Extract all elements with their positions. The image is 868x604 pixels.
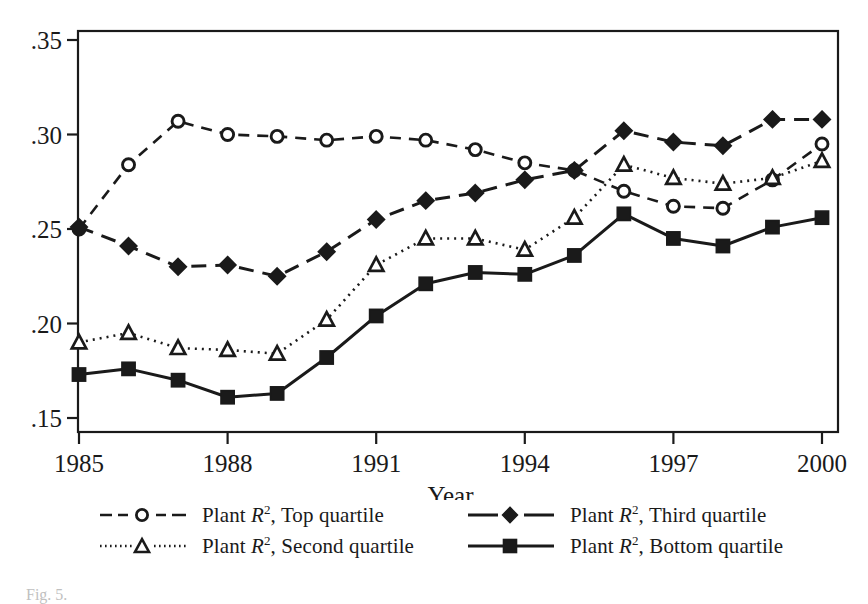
data-point-marker [764, 111, 780, 127]
figure-caption-fragment: Fig. 5. [26, 586, 67, 604]
data-point-marker [271, 130, 283, 142]
x-tick-label: 2000 [797, 450, 847, 477]
data-point-marker [617, 157, 631, 171]
data-series-layer [71, 111, 830, 404]
data-point-marker [219, 257, 235, 273]
data-point-marker [814, 111, 830, 127]
data-point-marker [518, 268, 531, 281]
data-point-marker [220, 342, 234, 356]
x-tick-label: 1994 [500, 450, 551, 477]
data-point-marker [665, 134, 681, 150]
data-point-marker [667, 232, 680, 245]
x-tick-label: 1997 [648, 450, 698, 477]
legend-item-bottom-quartile[interactable]: Plant R2, Bottom quartile [464, 531, 794, 561]
y-tick-label: .15 [31, 405, 62, 432]
data-point-marker [716, 239, 729, 252]
data-point-marker [815, 153, 829, 167]
legend-label-bottom-quartile: Plant R2, Bottom quartile [570, 534, 783, 559]
data-point-marker [271, 387, 284, 400]
data-point-marker [170, 259, 186, 275]
legend-label-third-quartile: Plant R2, Third quartile [570, 503, 766, 528]
data-point-marker [567, 210, 581, 224]
x-tick-label: 1988 [203, 450, 253, 477]
legend-swatch-open-circle-dashed [96, 502, 192, 528]
data-point-marker [368, 211, 384, 227]
data-point-marker [318, 243, 334, 259]
data-point-marker [420, 134, 432, 146]
legend-item-second-quartile[interactable]: Plant R2, Second quartile [96, 531, 426, 561]
data-point-marker [321, 134, 333, 146]
data-point-marker [123, 159, 135, 171]
legend-item-third-quartile[interactable]: Plant R2, Third quartile [464, 500, 794, 530]
data-point-marker [766, 221, 779, 234]
x-axis-title: Year [427, 482, 474, 500]
data-point-marker [617, 207, 630, 220]
data-point-marker [171, 340, 185, 354]
data-point-marker [320, 351, 333, 364]
data-point-marker [618, 185, 630, 197]
data-point-marker [319, 312, 333, 326]
x-tick-label: 1985 [54, 450, 104, 477]
data-point-marker [517, 172, 533, 188]
data-point-marker [221, 391, 234, 404]
data-point-marker [370, 130, 382, 142]
legend: Plant R2, Top quartile Plant R2, Third q… [96, 500, 796, 564]
x-tick-label: 1991 [351, 450, 401, 477]
y-axis-ticks: .15.20.25.30.35 [31, 27, 78, 432]
data-point-marker [419, 277, 432, 290]
data-point-marker [121, 325, 135, 339]
data-point-marker [370, 309, 383, 322]
data-point-marker [72, 335, 86, 349]
legend-label-second-quartile: Plant R2, Second quartile [202, 534, 414, 559]
data-point-marker [715, 138, 731, 154]
data-point-marker [418, 192, 434, 208]
y-tick-label: .25 [31, 216, 62, 243]
data-point-marker [469, 144, 481, 156]
data-point-marker [269, 268, 285, 284]
plot-area: .15.20.25.30.35 198519881991199419972000… [0, 0, 868, 500]
legend-swatch-filled-square-solid [464, 533, 560, 559]
data-point-marker [666, 170, 680, 184]
data-point-marker [519, 157, 531, 169]
data-point-marker [568, 249, 581, 262]
data-point-marker [518, 242, 532, 256]
data-point-marker [717, 202, 729, 214]
legend-swatch-filled-diamond-dash [464, 502, 560, 528]
data-point-marker [419, 231, 433, 245]
data-point-marker [369, 257, 383, 271]
data-point-marker [816, 138, 828, 150]
series-filled-square [72, 207, 828, 404]
series-open-circle [73, 115, 828, 235]
axis-frame [78, 31, 838, 432]
legend-swatch-open-triangle-dotted [96, 533, 192, 559]
data-point-marker [171, 374, 184, 387]
data-point-marker [667, 200, 679, 212]
data-point-marker [222, 129, 234, 141]
data-point-marker [270, 346, 284, 360]
x-axis-title-label: Year [427, 482, 474, 500]
data-point-marker [120, 238, 136, 254]
data-point-marker [122, 362, 135, 375]
legend-label-top-quartile: Plant R2, Top quartile [202, 503, 384, 528]
series-filled-diamond [71, 111, 830, 284]
x-axis-ticks: 198519881991199419972000 [54, 432, 847, 477]
series-open-triangle [72, 153, 829, 359]
y-tick-label: .30 [31, 122, 62, 149]
data-point-marker [172, 115, 184, 127]
data-point-marker [716, 176, 730, 190]
data-point-marker [468, 231, 482, 245]
data-point-marker [469, 266, 482, 279]
data-point-marker [467, 185, 483, 201]
y-tick-label: .20 [31, 311, 62, 338]
data-point-marker [815, 211, 828, 224]
legend-item-top-quartile[interactable]: Plant R2, Top quartile [96, 500, 426, 530]
data-point-marker [72, 368, 85, 381]
y-tick-label: .35 [31, 27, 62, 54]
data-point-marker [765, 170, 779, 184]
